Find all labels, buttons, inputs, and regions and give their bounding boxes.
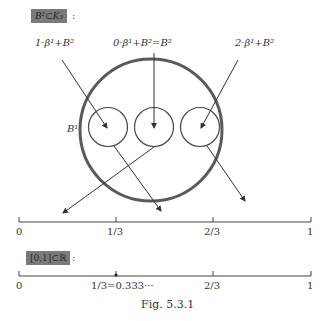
tick-label-top-1: 1 [307,226,313,237]
map-arrow-right [207,146,245,201]
label-right-translate: 2·β¹+B² [235,37,274,48]
label-center-translate: 0·β¹+B²=B² [113,37,172,48]
small-circle-right [181,108,220,147]
label-left-translate: 1·β¹+B² [35,37,74,48]
tick-label-bottom-1: 1 [307,280,313,291]
set-tag-b2-k3: B²⊂K₃ [31,9,67,23]
map-arrow-center [63,147,154,213]
set-tag-unit-interval: [0,1]⊂ℝ [26,251,70,265]
diagram-canvas [0,0,329,321]
tick-label-bottom-1-3: 1/3=0.333··· [91,280,154,291]
tick-label-top-1-3: 1/3 [107,226,123,237]
figure-caption: Fig. 5.3.1 [141,298,194,311]
map-arrow-left [114,146,161,211]
label-big-circle-b1: B¹ [67,123,78,134]
number-line-bottom [19,271,311,277]
set-tag-colon-bottom: : [72,252,75,263]
tick-label-top-0: 0 [16,226,22,237]
tick-label-top-2-3: 2/3 [204,226,220,237]
pointer-left [62,60,107,128]
set-tag-colon-top: : [72,10,75,21]
tick-label-bottom-0: 0 [16,280,22,291]
big-circle-b1 [80,59,222,201]
number-line-top [19,217,311,222]
small-circle-left [89,108,128,147]
tick-label-bottom-2-3: 2/3 [204,280,220,291]
